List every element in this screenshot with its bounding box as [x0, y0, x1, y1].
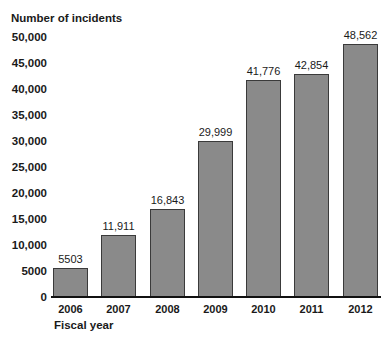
x-tick-label: 2006 — [46, 303, 96, 315]
y-tick-label: 45,000 — [12, 57, 47, 69]
bar-value-label: 5503 — [41, 253, 101, 265]
x-tick-label: 2012 — [336, 303, 386, 315]
y-tick-label: 35,000 — [12, 109, 47, 121]
bar-value-label: 16,843 — [138, 194, 198, 206]
bar-value-label: 11,911 — [89, 220, 149, 232]
bar-2006 — [53, 268, 88, 297]
bar-2012 — [343, 44, 378, 297]
y-tick-label: 40,000 — [12, 83, 47, 95]
y-tick-label: 5000 — [21, 265, 47, 277]
y-tick-label: 0 — [41, 291, 47, 303]
x-tick-label: 2008 — [143, 303, 193, 315]
y-tick-label: 15,000 — [12, 213, 47, 225]
x-tick-label: 2009 — [191, 303, 241, 315]
x-tick-label: 2010 — [239, 303, 289, 315]
bar-value-label: 42,854 — [282, 59, 342, 71]
bar-2009 — [198, 141, 233, 297]
bar-2007 — [101, 235, 136, 297]
y-tick-label: 30,000 — [12, 135, 47, 147]
bar-value-label: 29,999 — [186, 126, 246, 138]
bar-value-label: 48,562 — [331, 29, 388, 41]
x-axis-line — [51, 296, 381, 298]
y-tick-label: 20,000 — [12, 187, 47, 199]
bar-2011 — [294, 74, 329, 297]
x-tick-label: 2011 — [287, 303, 337, 315]
x-tick-label: 2007 — [94, 303, 144, 315]
bar-2010 — [246, 80, 281, 297]
bar-2008 — [150, 209, 185, 297]
y-tick-label: 25,000 — [12, 161, 47, 173]
y-tick-label: 50,000 — [12, 31, 47, 43]
y-axis-title: Number of incidents — [11, 12, 122, 24]
y-tick-label: 10,000 — [12, 239, 47, 251]
x-axis-title: Fiscal year — [54, 319, 113, 331]
